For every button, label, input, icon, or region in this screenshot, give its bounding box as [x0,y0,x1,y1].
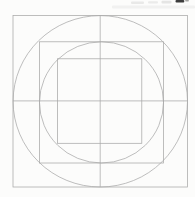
middle-square [40,42,164,163]
cropped-text-fragment [176,0,185,2]
faint-text-smudge-1 [131,2,144,4]
faint-text-smudge-2 [148,1,158,3]
middle-circle [40,42,164,163]
faint-text-smudge-3 [162,1,172,4]
scan-streak [112,6,195,9]
cropped-text-fragment-tail [185,0,189,2]
geometry-figure [0,0,195,197]
scanned-page [0,0,195,197]
